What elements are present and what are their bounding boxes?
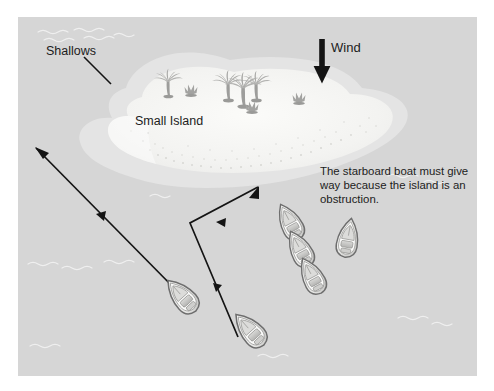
shallows-label: Shallows xyxy=(46,44,96,58)
rule-explanation-note: The starboard boat must give way because… xyxy=(320,165,480,207)
wind-label: Wind xyxy=(331,41,361,56)
small-island-label: Small Island xyxy=(135,114,203,128)
diagram-canvas: Shallows Small Island Wind The starboard… xyxy=(0,0,494,391)
